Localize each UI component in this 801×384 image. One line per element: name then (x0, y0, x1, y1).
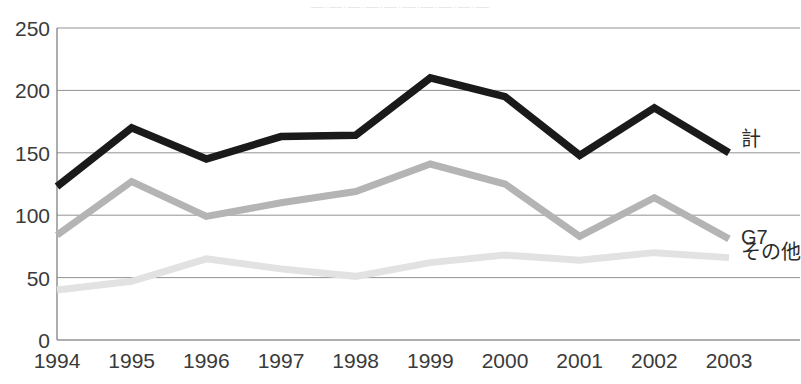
x-tick-label-1997: 1997 (258, 350, 305, 371)
series-line-other (57, 253, 729, 290)
y-tick-label-250: 250 (4, 18, 50, 39)
series-label-other: その他 (741, 242, 801, 262)
x-tick-label-2003: 2003 (706, 350, 753, 371)
x-tick-label-1994: 1994 (34, 350, 81, 371)
y-tick-label-200: 200 (4, 80, 50, 101)
x-tick-label-1999: 1999 (407, 350, 454, 371)
x-tick-label-1996: 1996 (183, 350, 230, 371)
x-tick-label-1995: 1995 (108, 350, 155, 371)
x-tick-label-1998: 1998 (332, 350, 379, 371)
series-line-total (57, 78, 729, 187)
y-tick-label-50: 50 (4, 267, 50, 288)
series-line-g7 (57, 164, 729, 239)
y-tick-label-150: 150 (4, 142, 50, 163)
y-axis-tick-labels: 050100150200250 (0, 0, 50, 384)
x-axis-tick-labels: 1994199519961997199819992000200120022003 (0, 347, 800, 381)
x-tick-label-2001: 2001 (556, 350, 603, 371)
x-tick-label-2002: 2002 (631, 350, 678, 371)
series-label-total: 計 (741, 129, 761, 149)
y-tick-label-100: 100 (4, 205, 50, 226)
x-tick-label-2000: 2000 (482, 350, 529, 371)
